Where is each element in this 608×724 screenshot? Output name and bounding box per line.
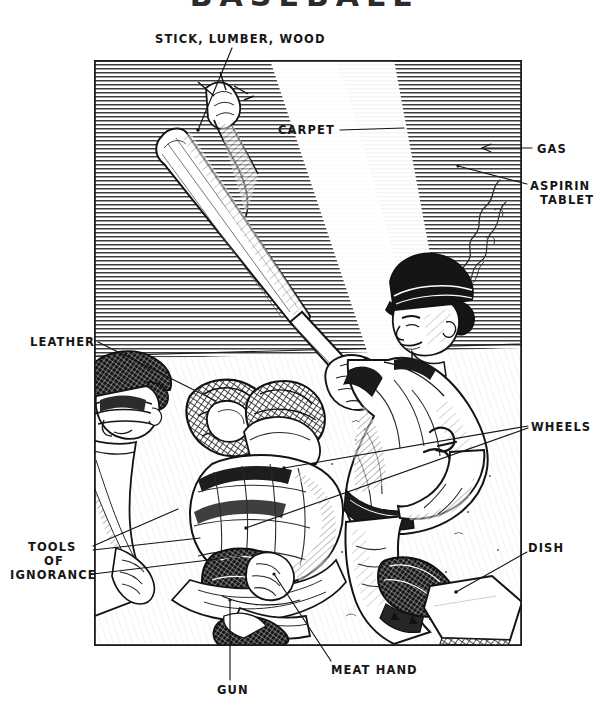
label-stick-lumber-wood: STICK, LUMBER, WOOD <box>155 32 326 46</box>
label-wheels: WHEELS <box>531 420 591 434</box>
illustration-frame <box>94 60 522 646</box>
page-title-sliver: BASEBALL <box>0 0 608 7</box>
label-meat-hand: MEAT HAND <box>331 663 418 677</box>
label-gas: GAS <box>537 142 567 156</box>
baseball-scene-drawing <box>94 60 522 646</box>
catcher-bare-hand <box>246 552 294 600</box>
label-tools-of-ignorance-line1: TOOLS <box>28 540 77 554</box>
label-aspirin-tablet-line2: TABLET <box>540 193 594 207</box>
label-tools-of-ignorance-line3: IGNORANCE <box>10 568 97 582</box>
label-dish: DISH <box>528 541 564 555</box>
label-aspirin-tablet-line1: ASPIRIN <box>530 179 590 193</box>
diagram-page: BASEBALL <box>0 0 608 724</box>
label-carpet: CARPET <box>278 123 335 137</box>
page-title-text: BASEBALL <box>190 0 419 7</box>
label-tools-of-ignorance-line2: OF <box>44 554 64 568</box>
label-leather: LEATHER <box>30 335 95 349</box>
label-gun: GUN <box>217 683 249 697</box>
